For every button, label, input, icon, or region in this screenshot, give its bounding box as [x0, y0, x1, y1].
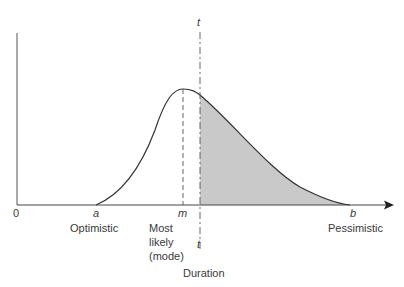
- origin-label: 0: [13, 207, 19, 220]
- pessimistic-caption: Pessimistic: [328, 222, 383, 235]
- mode-caption-line1: Most: [149, 222, 173, 235]
- t-top-label: t: [197, 16, 200, 29]
- mode-caption-line2: likely: [149, 236, 173, 249]
- m-label: m: [178, 207, 187, 220]
- a-label: a: [93, 207, 99, 220]
- x-axis-title: Duration: [183, 267, 225, 280]
- distribution-diagram: [0, 0, 404, 287]
- optimistic-caption: Optimistic: [70, 222, 118, 235]
- t-bottom-label: t: [197, 238, 200, 251]
- b-label: b: [350, 207, 356, 220]
- shaded-tail-area: [200, 95, 350, 205]
- mode-caption-line3: (mode): [149, 250, 184, 263]
